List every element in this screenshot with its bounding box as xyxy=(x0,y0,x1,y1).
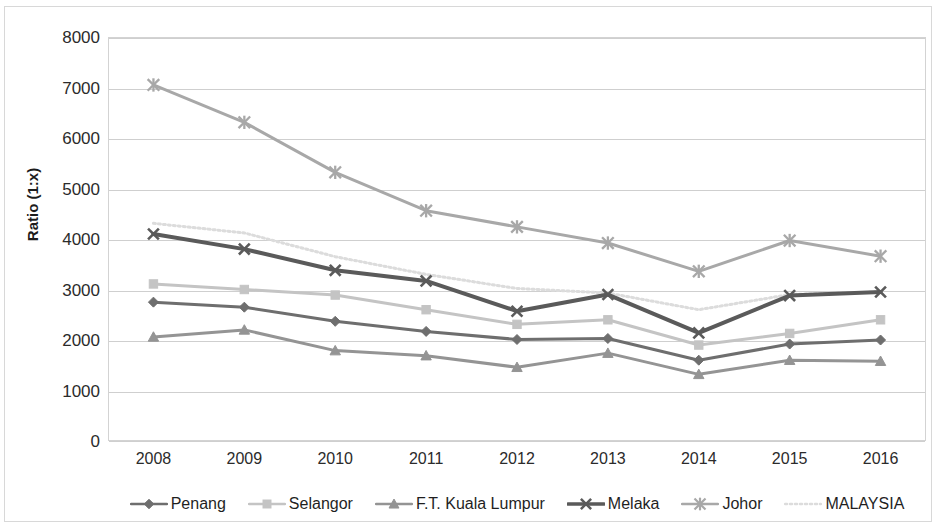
data-point-marker xyxy=(239,116,251,129)
legend-swatch-triangle-icon xyxy=(375,497,413,511)
series-johor xyxy=(148,78,887,278)
data-point-marker xyxy=(144,499,154,509)
data-point-marker xyxy=(785,339,795,349)
data-point-marker xyxy=(148,78,160,91)
data-point-marker xyxy=(329,166,341,179)
chart-legend: PenangSelangorF.T. Kuala LumpurMelakaJoh… xyxy=(108,489,926,519)
y-axis-tick-label: 6000 xyxy=(14,130,100,147)
legend-swatch-diamond-icon xyxy=(130,497,168,511)
x-axis-tick-label: 2010 xyxy=(317,450,353,468)
x-axis-tick-label: 2014 xyxy=(681,450,717,468)
data-point-marker xyxy=(695,341,703,349)
legend-item-penang[interactable]: Penang xyxy=(130,496,226,512)
y-axis-tick-label: 3000 xyxy=(14,281,100,298)
data-point-marker xyxy=(785,329,793,337)
legend-swatch-asterisk-icon xyxy=(681,497,719,511)
gridline xyxy=(109,441,925,442)
series-line xyxy=(153,223,880,309)
series-penang xyxy=(148,297,885,365)
y-axis-tick-label: 8000 xyxy=(14,29,100,46)
data-point-marker xyxy=(149,280,157,288)
data-point-marker xyxy=(876,335,886,345)
data-point-marker xyxy=(330,316,340,326)
legend-item-f-t-kuala-lumpur[interactable]: F.T. Kuala Lumpur xyxy=(375,496,545,512)
data-point-marker xyxy=(240,285,248,293)
legend-item-selangor[interactable]: Selangor xyxy=(248,496,353,512)
data-point-marker xyxy=(422,306,430,314)
chart-container: Ratio (1:x) 8000700060005000400030002000… xyxy=(0,0,937,528)
legend-item-malaysia[interactable]: MALAYSIA xyxy=(784,496,904,512)
series-malaysia xyxy=(153,223,880,309)
legend-swatch-x-icon xyxy=(567,497,605,511)
data-point-marker xyxy=(421,326,431,336)
data-point-marker xyxy=(876,316,884,324)
legend-label: Melaka xyxy=(608,496,660,512)
series-plot xyxy=(108,37,926,441)
legend-item-melaka[interactable]: Melaka xyxy=(567,496,660,512)
y-axis-tick-label: 4000 xyxy=(14,231,100,248)
legend-label: Johor xyxy=(722,496,762,512)
x-axis-tick-labels: 200820092010201120122013201420152016 xyxy=(108,450,926,476)
y-axis-tick-label: 0 xyxy=(14,433,100,450)
legend-swatch-line-icon xyxy=(784,497,822,511)
y-axis-tick-label: 7000 xyxy=(14,79,100,96)
x-axis-tick-label: 2008 xyxy=(136,450,172,468)
data-point-marker xyxy=(513,320,521,328)
y-axis-tick-label: 5000 xyxy=(14,180,100,197)
x-axis-tick-label: 2012 xyxy=(499,450,535,468)
y-axis-tick-label: 1000 xyxy=(14,382,100,399)
data-point-marker xyxy=(239,302,249,312)
y-axis-tick-labels: 800070006000500040003000200010000 xyxy=(8,37,100,441)
series-line xyxy=(153,234,880,333)
series-f-t-kuala-lumpur xyxy=(148,325,886,379)
series-line xyxy=(153,85,880,271)
data-point-marker xyxy=(263,500,271,508)
y-axis-tick-label: 2000 xyxy=(14,332,100,349)
legend-label: F.T. Kuala Lumpur xyxy=(416,496,545,512)
data-point-marker xyxy=(604,316,612,324)
legend-item-johor[interactable]: Johor xyxy=(681,496,762,512)
x-axis-tick-label: 2013 xyxy=(590,450,626,468)
legend-label: Selangor xyxy=(289,496,353,512)
data-point-marker xyxy=(148,297,158,307)
legend-label: MALAYSIA xyxy=(825,496,904,512)
data-point-marker xyxy=(331,291,339,299)
x-axis-tick-label: 2009 xyxy=(227,450,263,468)
x-axis-tick-label: 2015 xyxy=(772,450,808,468)
legend-swatch-square-icon xyxy=(248,497,286,511)
legend-label: Penang xyxy=(171,496,226,512)
data-point-marker xyxy=(603,333,613,343)
x-axis-tick-label: 2011 xyxy=(409,450,443,468)
x-axis-tick-label: 2016 xyxy=(863,450,899,468)
data-point-marker xyxy=(512,334,522,344)
data-point-marker xyxy=(694,355,704,365)
